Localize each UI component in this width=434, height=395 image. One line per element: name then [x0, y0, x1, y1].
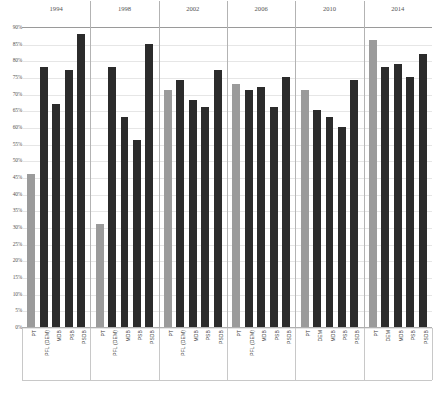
category-label: PSDB: [218, 330, 224, 344]
y-axis-tick-label: 5%: [15, 307, 22, 313]
bar: [133, 140, 141, 327]
bar: [257, 87, 265, 327]
y-axis-tick-label: 35%: [13, 207, 22, 213]
category-label: PSB: [410, 330, 416, 340]
category-label: PSDB: [81, 330, 87, 344]
category-label: PT: [236, 330, 242, 337]
category-label: DEM: [317, 330, 323, 341]
category-label: PSB: [205, 330, 211, 340]
year-group-label: 1994: [22, 5, 90, 12]
bar: [108, 67, 116, 327]
category-label: PSDB: [423, 330, 429, 344]
bar: [419, 54, 427, 327]
y-axis-tick-label: 60%: [13, 124, 22, 130]
bar: [201, 107, 209, 327]
bar: [65, 70, 73, 327]
category-label: PSDB: [286, 330, 292, 344]
category-label: MDB: [193, 330, 199, 341]
category-label: PSB: [342, 330, 348, 340]
bar: [245, 90, 253, 327]
bar: [121, 117, 129, 327]
year-group-label: 2010: [295, 5, 363, 12]
label-band-bottom-edge: [22, 380, 432, 381]
bar: [77, 34, 85, 327]
group-separator: [227, 1, 228, 328]
category-label: PT: [168, 330, 174, 337]
group-separator-lower: [295, 328, 296, 380]
group-separator-lower: [227, 328, 228, 380]
y-axis-tick-label: 25%: [13, 241, 22, 247]
bar: [52, 104, 60, 327]
bar: [326, 117, 334, 327]
category-label: DEM: [385, 330, 391, 341]
bar: [394, 64, 402, 327]
y-axis-tick-label: 20%: [13, 257, 22, 263]
y-axis-tick-label: 70%: [13, 91, 22, 97]
category-label: PSDB: [354, 330, 360, 344]
group-separator: [295, 1, 296, 328]
group-separator: [90, 1, 91, 328]
category-label: PFL (DEM): [44, 330, 50, 356]
bar: [381, 67, 389, 327]
year-group-label: 2014: [364, 5, 432, 12]
y-axis-tick-label: 50%: [13, 157, 22, 163]
y-axis-tick-label: 15%: [13, 274, 22, 280]
category-label: PT: [373, 330, 379, 337]
group-separator-lower: [90, 328, 91, 380]
group-separator: [159, 1, 160, 328]
bar: [270, 107, 278, 327]
y-axis-tick-label: 90%: [13, 24, 22, 30]
bar: [27, 174, 35, 327]
bar: [350, 80, 358, 327]
y-axis-tick-label: 45%: [13, 174, 22, 180]
bar: [406, 77, 414, 327]
group-separator-lower: [364, 328, 365, 380]
bar: [96, 224, 104, 327]
y-axis-tick-label: 0%: [15, 324, 22, 330]
category-label: PFL (DEM): [249, 330, 255, 356]
year-group-label: 2006: [227, 5, 295, 12]
label-band-left-edge: [22, 328, 23, 380]
category-label: PT: [100, 330, 106, 337]
bar: [145, 44, 153, 327]
category-label: PSB: [69, 330, 75, 340]
y-axis-tick-label: 65%: [13, 107, 22, 113]
category-label: PT: [305, 330, 311, 337]
bar: [313, 110, 321, 327]
bar: [189, 100, 197, 327]
year-group-label: 2002: [159, 5, 227, 12]
category-label: MDB: [56, 330, 62, 341]
bar: [232, 84, 240, 327]
category-label: PSB: [274, 330, 280, 340]
y-axis-tick-label: 55%: [13, 141, 22, 147]
y-axis-tick-label: 80%: [13, 57, 22, 63]
y-axis-tick-label: 10%: [13, 291, 22, 297]
y-axis: 90%85%80%75%70%65%60%55%50%45%40%35%30%2…: [0, 0, 22, 395]
category-label: MDB: [330, 330, 336, 341]
bar: [40, 67, 48, 327]
category-label: MDB: [125, 330, 131, 341]
bar: [369, 40, 377, 327]
y-axis-tick-label: 85%: [13, 41, 22, 47]
group-separator: [364, 1, 365, 328]
group-separator-lower: [159, 328, 160, 380]
bar: [282, 77, 290, 327]
category-label: PFL (DEM): [180, 330, 186, 356]
category-label: PSB: [137, 330, 143, 340]
plot-area: [22, 27, 432, 327]
y-axis-tick-label: 75%: [13, 74, 22, 80]
category-label: MDB: [261, 330, 267, 341]
bar: [164, 90, 172, 327]
bar: [338, 127, 346, 327]
category-label: PT: [31, 330, 37, 337]
label-band-right-edge: [432, 328, 433, 380]
category-label: PFL (DEM): [112, 330, 118, 356]
year-group-label: 1998: [90, 5, 158, 12]
category-label: PSDB: [149, 330, 155, 344]
y-axis-tick-label: 40%: [13, 191, 22, 197]
bar-chart: 90%85%80%75%70%65%60%55%50%45%40%35%30%2…: [0, 0, 434, 395]
bar: [214, 70, 222, 327]
bar: [176, 80, 184, 327]
y-axis-tick-label: 30%: [13, 224, 22, 230]
category-label: MDB: [398, 330, 404, 341]
